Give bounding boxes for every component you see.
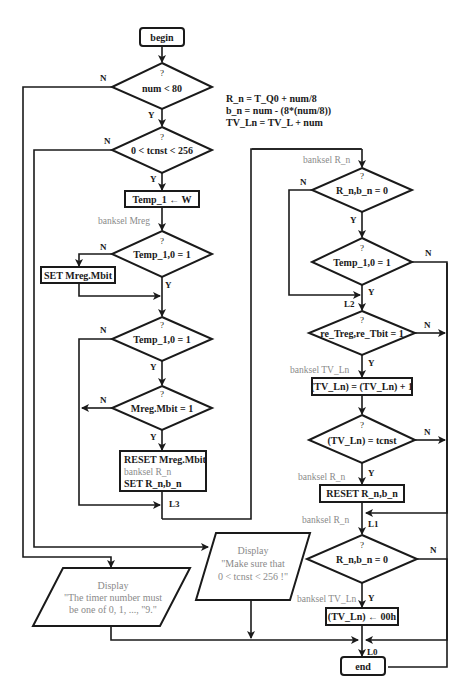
svg-text:banksel TV_Ln: banksel TV_Ln bbox=[290, 365, 349, 375]
svg-text:?: ? bbox=[360, 420, 364, 430]
svg-text:SET Mreg.Mbit: SET Mreg.Mbit bbox=[44, 270, 113, 281]
svg-text:Y: Y bbox=[368, 468, 375, 478]
svg-text:SET R_n,b_n: SET R_n,b_n bbox=[124, 478, 182, 489]
end-terminator: end bbox=[341, 657, 385, 675]
svg-text:Y: Y bbox=[350, 215, 357, 225]
svg-text:?: ? bbox=[160, 389, 164, 399]
decision-rn-bn-zero-b: ? R_n,b_n = 0 bbox=[307, 535, 417, 583]
process-clear-tvln: (TV_Ln) ← 00h bbox=[326, 608, 398, 625]
svg-text:?: ? bbox=[160, 236, 164, 246]
svg-text:?: ? bbox=[360, 171, 364, 181]
decision-re-treg-bit: ? re_Treg,re_Tbit = 1 bbox=[309, 311, 415, 355]
decision-rn-bn-zero-a: ? R_n,b_n = 0 bbox=[312, 168, 412, 212]
svg-text:(TV_Ln) = tcnst: (TV_Ln) = tcnst bbox=[327, 435, 397, 447]
svg-text:RESET R_n,b_n: RESET R_n,b_n bbox=[326, 488, 398, 499]
process-temp1-load-w: Temp_1 ← W bbox=[125, 191, 199, 207]
svg-text:?: ? bbox=[160, 68, 164, 78]
svg-text:Temp_1,0 = 1: Temp_1,0 = 1 bbox=[133, 249, 190, 260]
svg-text:L3: L3 bbox=[169, 499, 180, 509]
svg-text:?: ? bbox=[160, 132, 164, 142]
svg-text:banksel Mreg: banksel Mreg bbox=[98, 216, 150, 226]
svg-text:begin: begin bbox=[150, 32, 174, 43]
decision-temp1-bit0-c: ? Temp_1,0 = 1 bbox=[312, 238, 412, 285]
svg-text:?: ? bbox=[360, 243, 364, 253]
svg-text:(TV_Ln) ← 00h: (TV_Ln) ← 00h bbox=[328, 611, 397, 623]
svg-text:L0: L0 bbox=[367, 647, 378, 657]
svg-text:RESET Mreg.Mbit: RESET Mreg.Mbit bbox=[124, 454, 207, 465]
svg-text:N: N bbox=[424, 427, 431, 437]
decision-num-lt-80: ? num < 80 bbox=[112, 63, 212, 109]
svg-text:Display: Display bbox=[97, 580, 128, 591]
display-timer-number-message: Display "The timer number must be one of… bbox=[33, 568, 190, 626]
svg-text:Y: Y bbox=[150, 362, 157, 372]
svg-text:N: N bbox=[100, 325, 107, 335]
svg-text:0 < tcnst < 256: 0 < tcnst < 256 bbox=[131, 145, 193, 156]
svg-text:N: N bbox=[104, 136, 111, 146]
svg-text:N: N bbox=[100, 73, 107, 83]
svg-text:Temp_1,0 = 1: Temp_1,0 = 1 bbox=[133, 334, 190, 345]
svg-text:banksel R_n: banksel R_n bbox=[303, 155, 350, 165]
svg-text:?: ? bbox=[360, 315, 364, 325]
svg-text:0 < tcnst < 256 !": 0 < tcnst < 256 !" bbox=[218, 571, 288, 582]
svg-text:N: N bbox=[430, 545, 437, 555]
process-reset-mreg-set-rn: RESET Mreg.Mbit banksel R_n SET R_n,b_n bbox=[120, 451, 207, 491]
svg-text:be one of 0, 1, ..., "9.": be one of 0, 1, ..., "9." bbox=[69, 604, 157, 615]
svg-text:Y: Y bbox=[368, 358, 375, 368]
svg-text:Mreg.Mbit = 1: Mreg.Mbit = 1 bbox=[131, 403, 193, 414]
svg-text:b_n = num - (8*(num/8)): b_n = num - (8*(num/8)) bbox=[226, 105, 331, 117]
process-reset-rn-bn: RESET R_n,b_n bbox=[320, 485, 404, 502]
flowchart-canvas: begin ? num < 80 N Y R_n = T_Q0 + num/8 … bbox=[0, 0, 469, 698]
svg-text:N: N bbox=[425, 248, 432, 258]
svg-text:"The timer number must: "The timer number must bbox=[64, 592, 162, 603]
svg-text:Temp_1 ← W: Temp_1 ← W bbox=[133, 194, 192, 205]
svg-text:Y: Y bbox=[150, 432, 157, 442]
process-set-mreg-mbit: SET Mreg.Mbit bbox=[41, 267, 115, 283]
decision-temp1-bit0-b: ? Temp_1,0 = 1 bbox=[112, 317, 212, 361]
svg-text:Y: Y bbox=[368, 287, 375, 297]
process-increment-tvln: (TV_Ln) = (TV_Ln) + 1 bbox=[311, 378, 413, 395]
display-tcnst-range-message: Display "Make sure that 0 < tcnst < 256 … bbox=[196, 533, 310, 600]
svg-text:TV_Ln = TV_L + num: TV_Ln = TV_L + num bbox=[226, 117, 323, 128]
svg-text:banksel R_n: banksel R_n bbox=[298, 472, 345, 482]
svg-text:R_n,b_n = 0: R_n,b_n = 0 bbox=[336, 185, 388, 196]
svg-text:N: N bbox=[100, 242, 107, 252]
svg-text:R_n,b_n = 0: R_n,b_n = 0 bbox=[336, 554, 388, 565]
svg-text:end: end bbox=[355, 661, 371, 672]
formula-block: R_n = T_Q0 + num/8 b_n = num - (8*(num/8… bbox=[226, 93, 331, 128]
svg-text:banksel TV_Ln: banksel TV_Ln bbox=[297, 594, 356, 604]
svg-text:Y: Y bbox=[150, 174, 157, 184]
svg-text:L2: L2 bbox=[344, 299, 355, 309]
svg-text:Y: Y bbox=[165, 280, 172, 290]
svg-text:?: ? bbox=[360, 540, 364, 550]
begin-terminator: begin bbox=[140, 28, 184, 46]
svg-text:banksel R_n: banksel R_n bbox=[124, 467, 171, 477]
decision-tcnst-range: ? 0 < tcnst < 256 bbox=[112, 127, 212, 173]
svg-text:N: N bbox=[424, 320, 431, 330]
svg-text:re_Treg,re_Tbit = 1: re_Treg,re_Tbit = 1 bbox=[320, 328, 404, 339]
svg-text:Y: Y bbox=[368, 593, 375, 603]
svg-text:N: N bbox=[100, 395, 107, 405]
svg-text:(TV_Ln) = (TV_Ln) + 1: (TV_Ln) = (TV_Ln) + 1 bbox=[311, 381, 413, 393]
svg-text:Y: Y bbox=[148, 110, 155, 120]
svg-text:"Make sure that: "Make sure that bbox=[221, 558, 285, 569]
svg-text:banksel R_n: banksel R_n bbox=[302, 515, 349, 525]
decision-tvln-eq-tcnst: ? (TV_Ln) = tcnst bbox=[309, 415, 415, 463]
svg-text:Display: Display bbox=[237, 545, 268, 556]
svg-text:?: ? bbox=[160, 320, 164, 330]
svg-text:R_n = T_Q0 + num/8: R_n = T_Q0 + num/8 bbox=[226, 93, 317, 104]
svg-text:L1: L1 bbox=[368, 519, 379, 529]
decision-temp1-bit0-a: ? Temp_1,0 = 1 bbox=[112, 231, 212, 277]
svg-text:N: N bbox=[300, 177, 307, 187]
svg-text:Temp_1,0 = 1: Temp_1,0 = 1 bbox=[333, 257, 390, 268]
svg-text:num < 80: num < 80 bbox=[142, 83, 182, 94]
decision-mreg-mbit: ? Mreg.Mbit = 1 bbox=[112, 386, 212, 430]
